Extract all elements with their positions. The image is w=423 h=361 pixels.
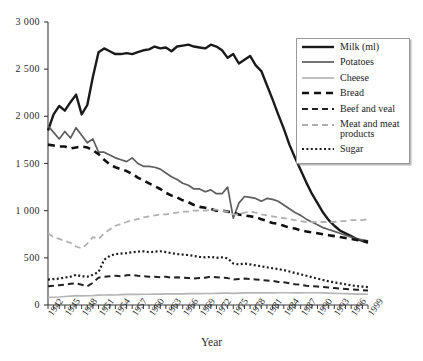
line-swatch-solid-lightgray [301,73,335,83]
legend-item[interactable]: Milk (ml) [297,39,409,55]
line-swatch-dotted-black [301,144,335,154]
x-axis-title: Year [0,336,423,348]
line-swatch-dashed-black [301,88,335,98]
legend-label: Cheese [340,73,369,84]
legend-item[interactable]: Cheese [297,70,409,86]
legend-label: Meat and meat products [340,119,406,140]
y-tick-label: 2 000 [0,110,40,121]
y-tick-label: 0 [0,299,40,310]
y-tick-label: 2 500 [0,63,40,74]
legend-label: Milk (ml) [340,42,379,53]
legend-label: Potatoes [340,57,374,68]
legend-label: Bread [340,88,364,99]
legend-item[interactable]: Potatoes [297,55,409,71]
legend-item[interactable]: Sugar [297,142,409,158]
legend-label: Sugar [340,144,363,155]
y-tick-label: 1 000 [0,205,40,216]
y-tick-label: 1 500 [0,158,40,169]
line-swatch-dashed-black-thin [301,104,335,114]
series-line [48,251,368,287]
legend-item[interactable]: Meat and meat products [297,117,409,142]
legend-label: Beef and veal [340,104,395,115]
chart-container: 05001 0001 5002 0002 5003 000 1942194519… [0,0,423,361]
legend-item[interactable]: Bread [297,86,409,102]
chart-legend: Milk (ml)PotatoesCheeseBreadBeef and vea… [296,38,410,164]
line-swatch-dashed-lightgray [301,120,335,130]
line-swatch-solid-black [301,42,335,52]
y-tick-label: 500 [0,252,40,263]
series-line [48,275,368,291]
line-swatch-solid-gray [301,57,335,67]
y-tick-label: 3 000 [0,16,40,27]
legend-item[interactable]: Beef and veal [297,101,409,117]
series-line [48,210,368,249]
